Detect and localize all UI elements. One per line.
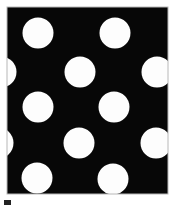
circle-aperture	[23, 92, 54, 123]
circle-aperture	[22, 163, 53, 194]
circle-aperture	[99, 92, 130, 123]
circle-aperture	[100, 18, 131, 49]
panel-label-mark-icon	[4, 200, 11, 205]
figure-image	[0, 0, 173, 209]
circle-aperture	[23, 18, 54, 49]
figure-container: Hexagonal array of white circular apertu…	[0, 0, 173, 209]
circle-aperture	[64, 128, 95, 159]
circle-aperture	[98, 164, 129, 195]
circle-aperture-clipped	[141, 128, 172, 159]
circle-aperture	[65, 57, 96, 88]
